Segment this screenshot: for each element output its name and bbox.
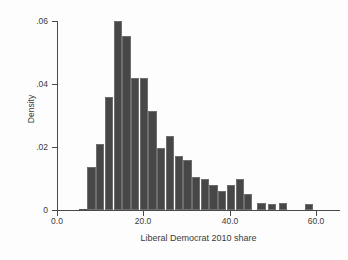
histogram-bar (268, 204, 276, 210)
histogram-bar (105, 97, 113, 210)
y-tick-label-3: .06 (22, 16, 48, 26)
histogram-bar (166, 136, 174, 210)
histogram-bar (140, 78, 148, 210)
histogram-bar (131, 78, 139, 210)
histogram-bar (209, 185, 217, 210)
histogram-bar (183, 160, 191, 210)
histogram-bar (157, 148, 165, 210)
histogram-bar (201, 179, 209, 210)
x-axis-title: Liberal Democrat 2010 share (57, 233, 340, 243)
histogram-bar (279, 203, 287, 210)
histogram-bar (218, 191, 226, 210)
x-tick-label-1: 20.0 (123, 216, 163, 226)
histogram-bar (244, 194, 252, 210)
x-tick-label-0: 0.0 (37, 216, 77, 226)
histogram-bar (96, 144, 104, 210)
histogram-bar (236, 179, 244, 210)
histogram-bar (79, 209, 87, 210)
histogram-bar (175, 156, 183, 210)
y-tick-label-0: 0 (22, 205, 48, 215)
histogram-bar (192, 177, 200, 210)
histogram-bar (305, 204, 313, 210)
histogram-bar (148, 111, 156, 210)
histogram-bar (227, 185, 235, 210)
histogram-bar (87, 167, 95, 210)
x-axis-line (57, 210, 340, 211)
histogram-bars (57, 21, 340, 210)
x-tick-label-2: 40.0 (210, 216, 250, 226)
y-axis-title: Density (26, 64, 36, 154)
x-tick-label-3: 60.0 (296, 216, 336, 226)
histogram-bar (114, 21, 122, 210)
histogram-figure: 0 .02 .04 .06 0.0 20.0 40.0 60.0 Density… (0, 0, 348, 260)
histogram-bar (257, 203, 265, 210)
histogram-bar (122, 36, 130, 210)
